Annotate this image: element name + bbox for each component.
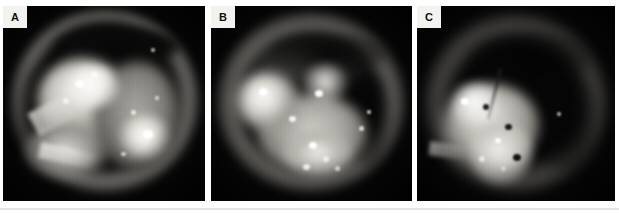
granular-tissue-c [469, 122, 533, 184]
speckle-c-1 [461, 98, 469, 105]
speckle-b-5 [323, 156, 329, 162]
speckle-c-8 [557, 112, 561, 116]
speckle-a-4 [143, 130, 153, 139]
caption-divider-rule [0, 208, 619, 210]
endoscopic-photo-b [211, 6, 412, 201]
panel-label-c: C [417, 6, 441, 28]
speckle-a-1 [75, 80, 84, 88]
speckle-a-2 [91, 72, 98, 78]
speckle-a-6 [155, 96, 159, 100]
speckle-b-7 [335, 166, 340, 171]
speckle-b-4 [309, 142, 317, 149]
panel-label-a: A [3, 6, 27, 28]
speckle-a-8 [151, 48, 155, 52]
speckle-b-3 [289, 116, 296, 122]
panel-label-b: B [211, 6, 235, 28]
speckle-b-2 [315, 90, 323, 97]
speckle-a-7 [121, 152, 126, 156]
dark-recess-c-2 [535, 66, 599, 176]
lower-tissue-b [283, 130, 353, 176]
panel-row: A [0, 0, 619, 202]
speckle-b-1 [259, 88, 268, 96]
endoscopic-photo-a [3, 6, 205, 201]
speckle-c-6 [479, 156, 485, 162]
figure-panel-b: B [211, 6, 412, 201]
speckle-b-6 [303, 164, 310, 170]
figure-panel-c: C [417, 6, 615, 201]
figure-panel-a: A [3, 6, 205, 201]
speckle-b-9 [367, 110, 371, 114]
speckle-c-2 [483, 104, 489, 110]
speckle-c-4 [495, 138, 501, 143]
speckle-b-8 [359, 126, 364, 131]
figure-root: A [0, 0, 619, 214]
speckle-c-3 [505, 124, 512, 130]
endoscopic-photo-c [417, 6, 615, 201]
speckle-c-5 [513, 154, 521, 161]
speckle-a-5 [131, 110, 136, 115]
specular-highlight-b-1 [303, 64, 349, 104]
speckle-c-7 [501, 166, 506, 171]
speckle-a-3 [63, 98, 69, 104]
